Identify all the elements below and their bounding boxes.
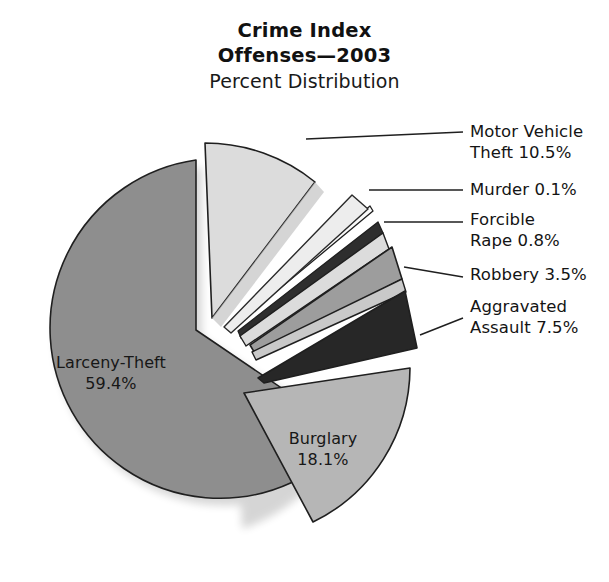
callout-label-murder: Murder 0.1% (470, 180, 577, 201)
leader-line-aggravated-assault (420, 318, 463, 335)
leader-line-robbery (404, 267, 463, 277)
leader-line-motor-vehicle-theft (306, 132, 463, 139)
callout-label-motor-vehicle-theft: Motor Vehicle Theft 10.5% (470, 122, 583, 163)
slice-label-larceny-theft: Larceny-Theft 59.4% (36, 352, 186, 394)
callout-label-robbery: Robbery 3.5% (470, 265, 587, 286)
callout-label-aggravated-assault: Aggravated Assault 7.5% (470, 297, 578, 338)
pie-chart-svg (0, 0, 609, 582)
pie-chart-figure: Crime Index Offenses—2003 Percent Distri… (0, 0, 609, 582)
callout-label-forcible-rape: Forcible Rape 0.8% (470, 210, 560, 251)
slice-label-burglary: Burglary 18.1% (268, 428, 378, 470)
